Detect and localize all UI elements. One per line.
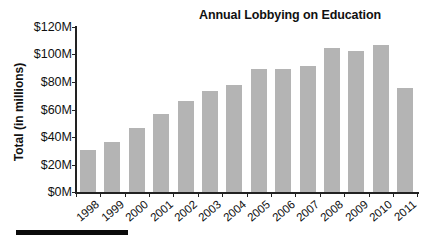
y-axis-line <box>75 26 77 193</box>
x-tick-mark <box>417 192 418 197</box>
x-tick-mark <box>222 192 223 197</box>
x-tick-mark <box>100 192 101 197</box>
bar-2008 <box>324 48 340 192</box>
x-tick-label: 2002 <box>172 198 199 224</box>
bar-2005 <box>251 69 267 192</box>
x-tick-label: 2004 <box>221 198 248 224</box>
bar-2003 <box>202 91 218 192</box>
bar-2009 <box>348 51 364 192</box>
y-tick-label: $120M <box>34 20 72 34</box>
x-tick-label: 2006 <box>270 198 297 224</box>
y-tick-label: $80M <box>41 75 72 89</box>
x-tick-label: 2010 <box>367 198 394 224</box>
x-tick-mark <box>149 192 150 197</box>
bar-2007 <box>300 66 316 192</box>
x-tick-label: 2003 <box>196 198 223 224</box>
x-tick-label: 2007 <box>294 198 321 224</box>
bar-2001 <box>153 114 169 192</box>
x-tick-mark <box>320 192 321 197</box>
x-tick-label: 2001 <box>148 198 175 224</box>
y-axis-label: Total (in millions) <box>12 63 26 161</box>
y-tick-label: $0M <box>48 185 72 199</box>
x-tick-label: 2000 <box>123 198 150 224</box>
bar-2011 <box>397 88 413 192</box>
decorative-black-bar <box>16 230 128 235</box>
y-tick-label: $40M <box>41 130 72 144</box>
x-tick-label: 1999 <box>99 198 126 224</box>
x-tick-label: 2011 <box>392 198 419 223</box>
x-tick-label: 1998 <box>74 198 101 224</box>
x-tick-mark <box>76 192 77 197</box>
x-tick-label: 2009 <box>343 198 370 224</box>
y-tick-label: $100M <box>34 47 72 61</box>
bar-2006 <box>275 69 291 192</box>
x-tick-mark <box>173 192 174 197</box>
x-tick-mark <box>271 192 272 197</box>
x-tick-mark <box>247 192 248 197</box>
x-tick-mark <box>369 192 370 197</box>
x-tick-mark <box>125 192 126 197</box>
y-tick-label: $20M <box>41 158 72 172</box>
x-tick-mark <box>198 192 199 197</box>
x-tick-mark <box>393 192 394 197</box>
bar-2004 <box>226 85 242 193</box>
x-tick-label: 2008 <box>318 198 345 224</box>
x-tick-mark <box>344 192 345 197</box>
x-tick-mark <box>295 192 296 197</box>
y-tick-label: $60M <box>41 103 72 117</box>
bar-2010 <box>373 45 389 192</box>
chart-title: Annual Lobbying on Education <box>160 8 420 22</box>
bar-2002 <box>178 101 194 192</box>
x-tick-label: 2005 <box>245 198 272 224</box>
bar-1999 <box>104 142 120 193</box>
bar-2000 <box>129 128 145 193</box>
bar-1998 <box>80 150 96 192</box>
